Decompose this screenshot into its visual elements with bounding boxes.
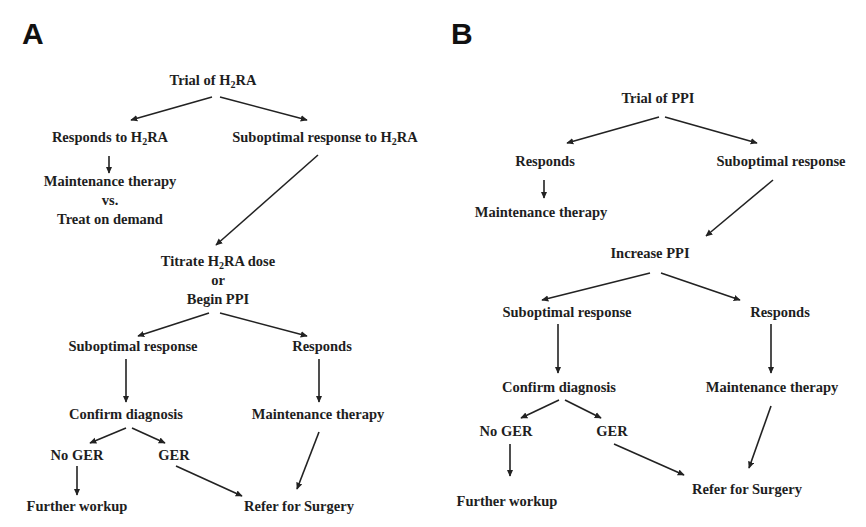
a-treat-on-demand-line: Treat on demand xyxy=(44,210,177,229)
a-titrate-line: Titrate H2RA dose xyxy=(161,252,275,271)
arrow-b-trial-to-responds xyxy=(567,117,659,143)
arrow-b-increase-to-responds xyxy=(661,273,740,300)
arrow-a-maintenance-to-refer xyxy=(297,432,319,489)
b-node-maintenance-therapy-2: Maintenance therapy xyxy=(706,378,839,397)
a-node-titrate-or-begin-ppi: Titrate H2RA dose or Begin PPI xyxy=(161,252,275,309)
arrow-b-suboptimal-to-increase xyxy=(706,180,773,236)
b-node-further-workup: Further workup xyxy=(457,492,558,511)
a-suboptimal-text: Suboptimal response to H xyxy=(232,129,392,145)
b-node-responds-2: Responds xyxy=(750,303,810,322)
panel-a-label: A xyxy=(22,19,44,49)
a-node-maintenance-vs-demand: Maintenance therapy vs. Treat on demand xyxy=(44,172,177,229)
arrow-a-trial-to-suboptimal xyxy=(220,97,307,120)
a-node-confirm-diagnosis: Confirm diagnosis xyxy=(69,405,183,424)
arrows-layer xyxy=(0,0,866,527)
arrow-b-ger-to-refer xyxy=(614,444,684,475)
a-node-ger: GER xyxy=(158,446,189,465)
panel-b-label: B xyxy=(451,19,473,49)
arrow-b-trial-to-suboptimal xyxy=(665,117,757,143)
a-node-maintenance-therapy: Maintenance therapy xyxy=(252,405,385,424)
arrow-b-maintenance-to-refer xyxy=(749,406,771,468)
a-responds-text: Responds to H xyxy=(52,129,142,145)
a-node-refer-for-surgery: Refer for Surgery xyxy=(244,497,354,516)
a-node-no-ger: No GER xyxy=(51,446,104,465)
a-node-responds: Responds xyxy=(292,337,352,356)
flowchart-figure: A Trial of H2RA Responds to H2RA Subopti… xyxy=(0,0,866,527)
a-vs-line: vs. xyxy=(44,191,177,210)
a-or-line: or xyxy=(161,271,275,290)
a-trial-text-post: RA xyxy=(236,72,257,88)
arrow-a-confirm-to-noger xyxy=(90,428,126,443)
arrow-b-confirm-to-ger xyxy=(565,400,601,418)
b-node-increase-ppi: Increase PPI xyxy=(610,244,689,263)
b-node-suboptimal-response: Suboptimal response xyxy=(716,152,845,171)
arrow-a-trial-to-responds xyxy=(131,97,212,120)
arrow-a-suboptimal-to-titrate xyxy=(216,155,318,245)
b-node-maintenance-therapy: Maintenance therapy xyxy=(475,203,608,222)
a-responds-text-post: RA xyxy=(147,129,168,145)
arrow-a-beginppi-to-responds xyxy=(220,313,307,336)
b-node-ger: GER xyxy=(596,422,627,441)
arrow-a-confirm-to-ger xyxy=(132,428,165,443)
a-suboptimal-text-post: RA xyxy=(397,129,418,145)
arrow-b-increase-to-suboptimal xyxy=(542,273,650,300)
a-node-suboptimal-response: Suboptimal response xyxy=(68,337,197,356)
a-node-trial-h2ra: Trial of H2RA xyxy=(170,71,257,90)
arrow-b-confirm-to-noger xyxy=(521,400,559,418)
arrow-a-ger-to-refer xyxy=(176,466,242,496)
b-node-responds: Responds xyxy=(515,152,575,171)
a-maintenance-line: Maintenance therapy xyxy=(44,172,177,191)
a-trial-text: Trial of H xyxy=(170,72,231,88)
b-node-refer-for-surgery: Refer for Surgery xyxy=(692,480,802,499)
b-node-confirm-diagnosis: Confirm diagnosis xyxy=(502,378,616,397)
b-node-trial-ppi: Trial of PPI xyxy=(621,89,694,108)
b-node-suboptimal-response-2: Suboptimal response xyxy=(502,303,631,322)
b-node-no-ger: No GER xyxy=(480,422,533,441)
a-titrate-text-post: RA dose xyxy=(224,253,275,269)
a-node-responds-h2ra: Responds to H2RA xyxy=(52,128,168,147)
a-node-further-workup: Further workup xyxy=(27,497,128,516)
a-begin-ppi-line: Begin PPI xyxy=(161,290,275,309)
a-node-suboptimal-h2ra: Suboptimal response to H2RA xyxy=(232,128,418,147)
a-titrate-text: Titrate H xyxy=(161,253,219,269)
arrow-a-beginppi-to-suboptimal xyxy=(138,313,209,336)
